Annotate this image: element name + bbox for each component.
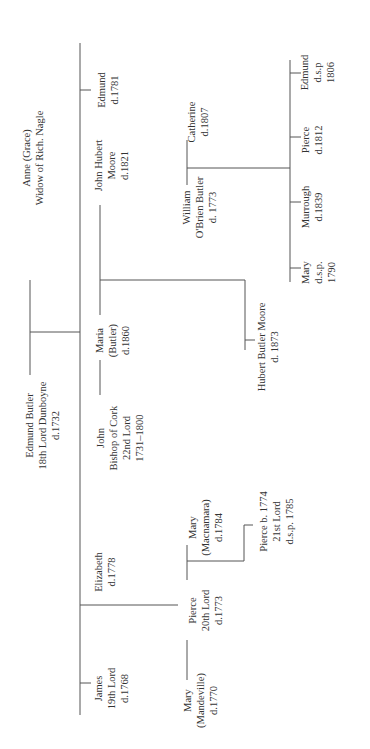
person-text-line: d. 1773 bbox=[206, 176, 219, 238]
person-text-line: Widow of Rich. Nagle bbox=[33, 111, 46, 206]
person-text-line: d.1784 bbox=[211, 499, 224, 556]
person-text-line: 22nd Lord bbox=[120, 406, 133, 471]
person-text-line: Edmund bbox=[298, 54, 311, 90]
person-edmund-butler: Edmund Butler18th Lord Dunboyned.1732 bbox=[23, 381, 62, 469]
person-text-line: d.s.p. bbox=[311, 261, 324, 284]
person-john-bishop: JohnBishop of Cork22nd Lord1731–1800 bbox=[94, 406, 146, 471]
person-text-line: d.s.p. 1785 bbox=[283, 491, 296, 551]
person-pierce-21st: Pierce b. 177421st Lordd.s.p. 1785 bbox=[257, 491, 296, 551]
person-text-line: d.1860 bbox=[119, 323, 132, 356]
person-text-line: Anne (Grace) bbox=[20, 111, 33, 206]
person-text-line: Maria bbox=[93, 323, 106, 356]
person-mary-macnamara: Mary(Macnamara)d.1784 bbox=[185, 499, 224, 556]
person-pierce-1812: Pierced.1812 bbox=[299, 126, 325, 155]
person-text-line: 21st Lord bbox=[270, 491, 283, 551]
person-mary-mandeville: Mary(Mandeville)d.1770 bbox=[180, 673, 219, 728]
person-text-line: 1790 bbox=[324, 261, 337, 284]
person-edmund-1781: Edmundd.1781 bbox=[95, 72, 121, 108]
person-text-line: d.1781 bbox=[108, 72, 121, 108]
person-catherine: Catherined.1807 bbox=[185, 102, 211, 143]
person-text-line: Pierce b. 1774 bbox=[257, 491, 270, 551]
person-hubert-butler-moore: Hubert Butler Moored. 1873 bbox=[255, 303, 281, 392]
person-text-line: 20th Lord bbox=[199, 589, 212, 631]
person-text-line: Mary bbox=[298, 261, 311, 284]
person-text-line: Pierce bbox=[299, 126, 312, 155]
person-murrough: Murroughd.1839 bbox=[299, 186, 325, 229]
person-text-line: d.1778 bbox=[105, 552, 118, 592]
person-text-line: (Mandeville) bbox=[193, 673, 206, 728]
person-text-line: d.1773 bbox=[212, 589, 225, 631]
person-text-line: (Butler) bbox=[106, 323, 119, 356]
person-text-line: 18th Lord Dunboyne bbox=[36, 381, 49, 469]
person-text-line: 1731–1800 bbox=[133, 406, 146, 471]
person-text-line: Edmund Butler bbox=[23, 381, 36, 469]
person-james: James19th Lordd.1768 bbox=[92, 667, 131, 709]
person-text-line: Mary bbox=[185, 499, 198, 556]
person-text-line: 1806 bbox=[324, 54, 337, 90]
person-text-line: Mary bbox=[180, 673, 193, 728]
person-text-line: 19th Lord bbox=[105, 667, 118, 709]
person-text-line: Murrough bbox=[299, 186, 312, 229]
person-text-line: d.1839 bbox=[312, 186, 325, 229]
person-text-line: d.1768 bbox=[118, 667, 131, 709]
person-john-hubert-moore: John HubertMoored.1821 bbox=[92, 139, 131, 191]
person-text-line: Elizabeth bbox=[92, 552, 105, 592]
person-text-line: d.1770 bbox=[206, 673, 219, 728]
person-text-line: John bbox=[94, 406, 107, 471]
person-text-line: d. 1873 bbox=[268, 303, 281, 392]
person-william-obrien: WilliamO'Brien Butlerd. 1773 bbox=[180, 176, 219, 238]
person-maria-butler: Maria(Butler)d.1860 bbox=[93, 323, 132, 356]
person-text-line: d.1807 bbox=[198, 102, 211, 143]
person-text-line: Hubert Butler Moore bbox=[255, 303, 268, 392]
person-edmund-dsp: Edmundd.s.p1806 bbox=[298, 54, 337, 90]
family-tree-diagram: Anne (Grace)Widow of Rich. NagleEdmund B… bbox=[0, 0, 370, 749]
person-text-line: Catherine bbox=[185, 102, 198, 143]
person-text-line: John Hubert bbox=[92, 139, 105, 191]
person-text-line: d.1812 bbox=[312, 126, 325, 155]
person-pierce-20th: Pierce20th Lordd.1773 bbox=[186, 589, 225, 631]
person-text-line: James bbox=[92, 667, 105, 709]
person-text-line: O'Brien Butler bbox=[193, 176, 206, 238]
person-text-line: d.1732 bbox=[49, 381, 62, 469]
person-elizabeth: Elizabethd.1778 bbox=[92, 552, 118, 592]
person-text-line: Moore bbox=[105, 139, 118, 191]
person-text-line: Edmund bbox=[95, 72, 108, 108]
person-text-line: d.s.p bbox=[311, 54, 324, 90]
person-text-line: William bbox=[180, 176, 193, 238]
person-anne: Anne (Grace)Widow of Rich. Nagle bbox=[20, 111, 46, 206]
person-text-line: (Macnamara) bbox=[198, 499, 211, 556]
person-text-line: Bishop of Cork bbox=[107, 406, 120, 471]
person-text-line: d.1821 bbox=[118, 139, 131, 191]
person-text-line: Pierce bbox=[186, 589, 199, 631]
person-mary-dsp: Maryd.s.p.1790 bbox=[298, 261, 337, 284]
